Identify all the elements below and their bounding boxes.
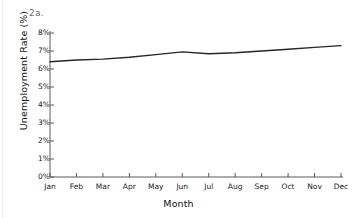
figure-panel: 2a. Unemployment Rate (%) Month 0%1%2%3%…	[0, 0, 357, 218]
data-series-line	[50, 46, 341, 62]
chart-plot-area	[0, 0, 357, 218]
